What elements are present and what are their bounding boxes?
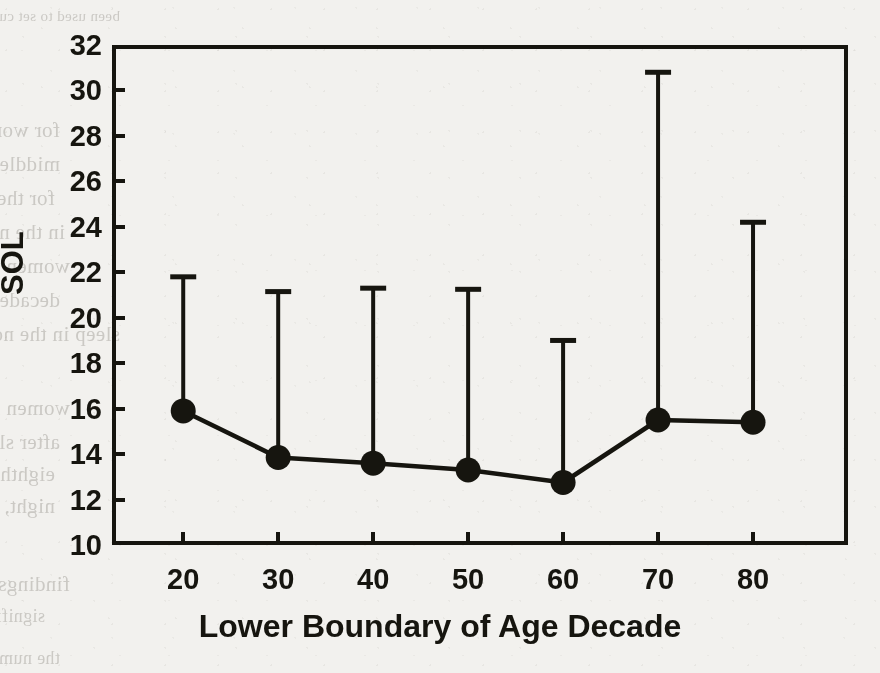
data-series-layer bbox=[0, 0, 880, 673]
data-point-marker bbox=[171, 398, 196, 423]
data-point-marker bbox=[456, 458, 481, 483]
sol-vs-age-line-chart: 101214161820222426283032 20304050607080 … bbox=[0, 0, 880, 673]
data-point-marker bbox=[551, 470, 576, 495]
figure-page: been used to set cutpoints, the numeric … bbox=[0, 0, 880, 673]
data-point-marker bbox=[266, 445, 291, 470]
data-point-marker bbox=[646, 408, 671, 433]
data-point-marker bbox=[361, 451, 386, 476]
data-point-marker bbox=[741, 410, 766, 435]
y-axis-title: SOL bbox=[0, 231, 31, 295]
x-axis-title: Lower Boundary of Age Decade bbox=[0, 608, 880, 645]
